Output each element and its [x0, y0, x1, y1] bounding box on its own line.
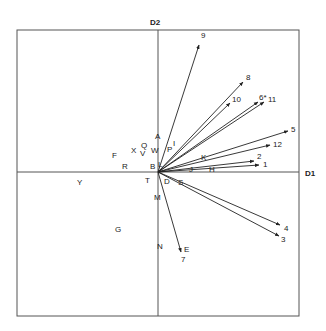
point-label-m: M — [154, 193, 161, 202]
point-label-a: A — [155, 132, 161, 141]
point-label-r: R — [122, 162, 128, 171]
point-label-x: X — [131, 146, 137, 155]
arrow-label-6: 6* — [259, 93, 267, 102]
arrow-3 — [158, 172, 279, 236]
arrow-label-10: 10 — [232, 95, 241, 104]
point-label-d: D — [164, 177, 170, 186]
point-label-j: J — [189, 165, 193, 174]
arrow-label-2: 2 — [257, 152, 262, 161]
point-label-b: B — [150, 162, 155, 171]
arrow-label-1: 1 — [263, 160, 268, 169]
point-label-t: T — [145, 176, 150, 185]
point-label-l: L — [158, 160, 163, 169]
point-label-g: G — [115, 225, 121, 234]
arrow-label-11: 11 — [268, 95, 277, 104]
point-label-e: E — [184, 245, 189, 254]
arrow-label-9: 9 — [201, 31, 206, 40]
ordination-biplot: D1 D2 98106*1151221437 APIWQVXFRBLKJHYTD… — [0, 0, 326, 331]
arrow-label-12: 12 — [273, 140, 282, 149]
arrow-label-4: 4 — [284, 224, 289, 233]
arrow-label-3: 3 — [281, 235, 286, 244]
point-label-s: S — [178, 178, 183, 187]
arrow-label-5: 5 — [291, 125, 296, 134]
point-label-k: K — [201, 153, 207, 162]
point-label-w: W — [151, 146, 159, 155]
arrow-label-8: 8 — [246, 73, 251, 82]
arrow-label-7: 7 — [181, 255, 186, 264]
sample-points: APIWQVXFRBLKJHYTDSMGNE — [77, 132, 215, 254]
variable-arrows: 98106*1151221437 — [158, 31, 296, 264]
point-label-n: N — [157, 242, 163, 251]
point-label-y: Y — [77, 178, 83, 187]
arrow-6 — [158, 102, 258, 172]
d1-axis-label: D1 — [305, 169, 316, 178]
biplot-canvas: D1 D2 98106*1151221437 APIWQVXFRBLKJHYTD… — [0, 0, 326, 331]
d2-axis-label: D2 — [150, 18, 161, 27]
arrow-4 — [158, 172, 280, 225]
point-label-h: H — [209, 165, 215, 174]
point-label-i: I — [173, 139, 175, 148]
point-label-f: F — [112, 151, 117, 160]
point-label-v: V — [140, 149, 146, 158]
point-label-p: P — [167, 145, 172, 154]
